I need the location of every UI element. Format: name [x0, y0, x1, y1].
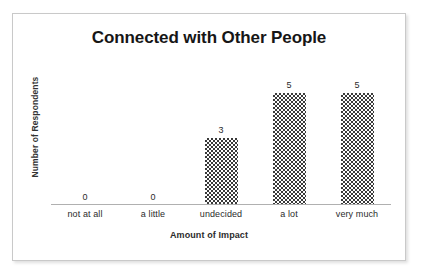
bar-undecided	[205, 138, 238, 205]
bar-value-label: 5	[354, 81, 359, 90]
bar-group-undecided: 3	[187, 59, 255, 205]
bar-group-a-little: 0	[119, 59, 187, 205]
chart-frame: Connected with Other People Number of Re…	[12, 13, 406, 261]
bar-group-very-much: 5	[323, 59, 391, 205]
bar-value-label: 5	[286, 81, 291, 90]
bar-group-a-lot: 5	[255, 59, 323, 205]
tick-label-not-at-all: not at all	[51, 209, 119, 219]
bar-series: 0 0 3 5 5	[51, 59, 391, 205]
y-axis-title: Number of Respondents	[30, 57, 40, 197]
plot-area: 0 0 3 5 5	[51, 59, 391, 205]
bar-group-not-at-all: 0	[51, 59, 119, 205]
chart-title: Connected with Other People	[13, 28, 405, 48]
tick-label-very-much: very much	[323, 209, 391, 219]
x-axis-title: Amount of Impact	[13, 230, 405, 240]
tick-label-a-lot: a lot	[255, 209, 323, 219]
bar-value-label: 3	[218, 126, 223, 135]
bar-very-much	[341, 93, 374, 205]
bar-a-lot	[273, 93, 306, 205]
x-axis-line	[51, 204, 391, 205]
tick-label-undecided: undecided	[187, 209, 255, 219]
tick-label-a-little: a little	[119, 209, 187, 219]
bar-value-label: 0	[82, 193, 87, 202]
bar-value-label: 0	[150, 193, 155, 202]
x-axis-tick-labels: not at all a little undecided a lot very…	[51, 209, 391, 219]
